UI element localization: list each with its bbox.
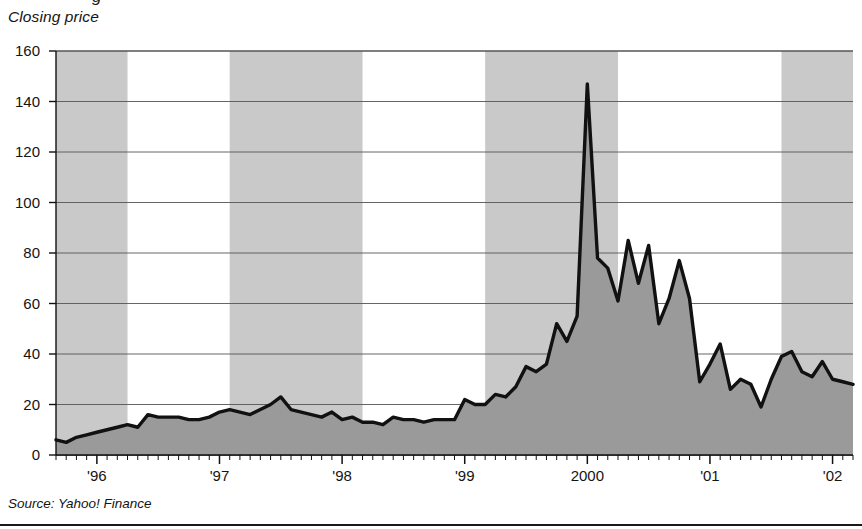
y-axis-tick-label: 80	[0, 245, 40, 260]
y-axis-tick-label: 60	[0, 296, 40, 311]
y-axis-tick-label: 120	[0, 144, 40, 159]
x-axis-tick-label: '02	[803, 468, 862, 483]
y-axis-tick-label: 160	[0, 43, 40, 58]
x-axis-tick-label: '97	[189, 468, 249, 483]
y-axis-tick-label: 40	[0, 346, 40, 361]
y-axis-tick-label: 0	[0, 447, 40, 462]
y-axis-tick-label: 100	[0, 195, 40, 210]
x-axis-tick-label: '01	[680, 468, 740, 483]
x-axis-tick-label: 2000	[557, 468, 617, 483]
chart-svg	[0, 0, 862, 500]
chart-plot-area: 020406080100120140160'96'97'98'992000'01…	[0, 0, 862, 500]
x-axis-tick-label: '98	[312, 468, 372, 483]
y-axis-tick-label: 140	[0, 94, 40, 109]
bottom-rule	[0, 524, 862, 526]
x-axis-tick-label: '99	[435, 468, 495, 483]
y-axis-tick-label: 20	[0, 397, 40, 412]
x-axis-tick-label: '96	[67, 468, 127, 483]
chart-page: g Closing price 020406080100120140160'96…	[0, 0, 862, 529]
source-note: Source: Yahoo! Finance	[8, 496, 152, 511]
